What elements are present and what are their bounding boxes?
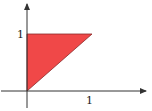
diagram-canvas: 1 1 bbox=[0, 0, 152, 111]
x-tick-label: 1 bbox=[86, 94, 93, 107]
shaded-region bbox=[27, 34, 92, 91]
y-tick-label: 1 bbox=[17, 28, 24, 41]
